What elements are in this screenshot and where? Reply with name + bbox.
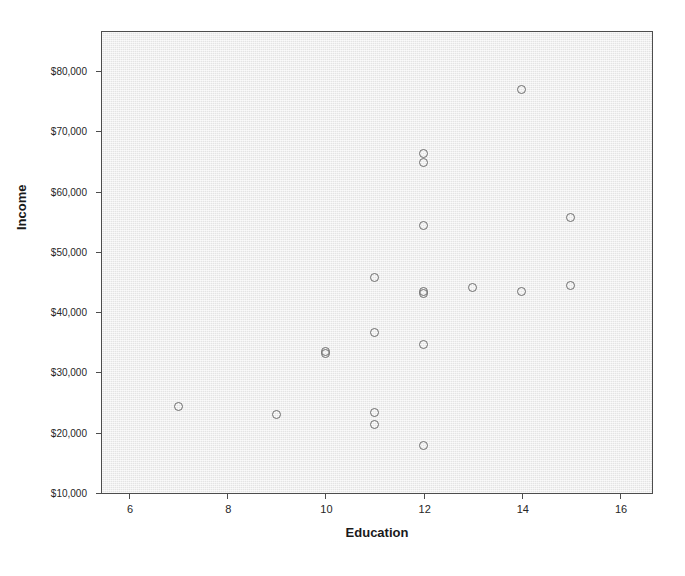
- y-axis-tick: $80,000: [96, 71, 102, 72]
- scatter-chart: $10,000$20,000$30,000$40,000$50,000$60,0…: [0, 0, 685, 576]
- x-axis-tick: 8: [227, 493, 228, 499]
- plot-area: $10,000$20,000$30,000$40,000$50,000$60,0…: [101, 31, 653, 494]
- x-axis-tick-label: 16: [615, 502, 627, 516]
- data-point: [370, 273, 379, 282]
- x-axis-tick-label: 12: [419, 502, 431, 516]
- x-axis-tick-label: 8: [225, 502, 231, 516]
- data-point: [174, 402, 183, 411]
- y-axis-tick-label: $80,000: [51, 65, 87, 78]
- x-axis-tick: 16: [620, 493, 621, 499]
- x-axis-tick: 14: [522, 493, 523, 499]
- data-point: [370, 420, 379, 429]
- x-axis-tick: 6: [129, 493, 130, 499]
- x-axis-tick: 10: [325, 493, 326, 499]
- y-axis-tick: $20,000: [96, 433, 102, 434]
- data-point: [370, 328, 379, 337]
- data-point: [517, 85, 526, 94]
- data-point: [419, 221, 428, 230]
- y-axis-tick: $60,000: [96, 192, 102, 193]
- y-axis-tick: $30,000: [96, 372, 102, 373]
- x-axis-tick-label: 10: [320, 502, 332, 516]
- data-point: [321, 349, 330, 358]
- y-axis-tick: $10,000: [96, 493, 102, 494]
- y-axis-tick: $50,000: [96, 252, 102, 253]
- y-axis-tick-label: $30,000: [51, 366, 87, 379]
- data-point: [468, 283, 477, 292]
- y-axis-tick-label: $20,000: [51, 427, 87, 440]
- data-point: [370, 408, 379, 417]
- y-axis-tick-label: $10,000: [51, 487, 87, 500]
- y-axis-tick: $40,000: [96, 312, 102, 313]
- data-point: [419, 289, 428, 298]
- data-point: [272, 410, 281, 419]
- data-point: [517, 287, 526, 296]
- data-point: [419, 158, 428, 167]
- data-point: [566, 213, 575, 222]
- data-point: [419, 441, 428, 450]
- x-axis-tick-label: 6: [127, 502, 133, 516]
- data-point: [419, 340, 428, 349]
- y-axis-title: Income: [14, 184, 29, 230]
- y-axis-tick-label: $60,000: [51, 186, 87, 199]
- x-axis-title: Education: [101, 525, 653, 540]
- y-axis-tick-label: $70,000: [51, 125, 87, 138]
- data-point: [419, 149, 428, 158]
- x-axis-tick-label: 14: [517, 502, 529, 516]
- x-axis-tick: 12: [424, 493, 425, 499]
- y-axis-tick-label: $50,000: [51, 246, 87, 259]
- y-axis-tick: $70,000: [96, 131, 102, 132]
- y-axis-tick-label: $40,000: [51, 306, 87, 319]
- data-point: [566, 281, 575, 290]
